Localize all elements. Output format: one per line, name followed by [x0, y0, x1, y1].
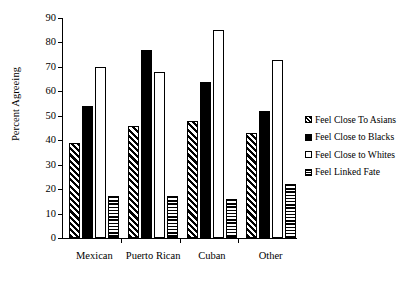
y-tick-mark	[58, 91, 62, 92]
y-tick-mark	[58, 189, 62, 190]
x-axis-group-separator	[238, 238, 239, 243]
bars	[246, 18, 296, 238]
chart-legend: Feel Close To AsiansFeel Close to Blacks…	[305, 112, 416, 182]
bar	[82, 106, 93, 238]
bar	[108, 196, 119, 238]
x-axis-category-label: Puerto Rican	[126, 250, 181, 261]
bar	[69, 143, 80, 238]
y-tick-mark	[58, 140, 62, 141]
y-tick-label: 60	[46, 86, 57, 97]
y-tick-label: 70	[46, 62, 57, 73]
bars	[187, 18, 237, 238]
bar	[200, 82, 211, 238]
legend-item: Feel Close To Asians	[305, 112, 416, 127]
bar	[259, 111, 270, 238]
y-axis-title: Percent Agreeing	[10, 54, 26, 154]
x-axis-category-label: Mexican	[76, 250, 113, 261]
bar	[213, 30, 224, 238]
legend-item: Feel Close to Whites	[305, 147, 416, 162]
legend-swatch-icon	[305, 116, 312, 123]
plot-area: 0102030405060708090 MexicanPuerto RicanC…	[62, 18, 297, 239]
y-tick-label: 90	[46, 13, 57, 24]
legend-label: Feel Close to Whites	[315, 150, 395, 160]
y-tick-label: 20	[46, 184, 57, 195]
legend-item: Feel Close to Blacks	[305, 130, 416, 145]
y-tick-label: 50	[46, 111, 57, 122]
bar	[154, 72, 165, 238]
bars	[128, 18, 178, 238]
y-tick-mark	[58, 238, 62, 239]
y-tick-mark	[58, 116, 62, 117]
x-axis-group-separator	[180, 238, 181, 243]
legend-swatch-icon	[305, 134, 312, 141]
y-tick-label: 30	[46, 159, 57, 170]
bars	[69, 18, 119, 238]
bar	[141, 50, 152, 238]
bar	[95, 67, 106, 238]
bar	[246, 133, 257, 238]
legend-item: Feel Linked Fate	[305, 165, 416, 180]
x-axis-category-label: Cuban	[198, 250, 225, 261]
y-axis-line	[62, 18, 63, 239]
y-tick-label: 0	[51, 233, 56, 244]
legend-label: Feel Close To Asians	[315, 115, 396, 125]
bar	[226, 199, 237, 238]
legend-label: Feel Close to Blacks	[315, 132, 394, 142]
bar	[128, 126, 139, 238]
bar	[167, 196, 178, 238]
legend-swatch-icon	[305, 169, 312, 176]
y-tick-mark	[58, 165, 62, 166]
y-tick-mark	[58, 18, 62, 19]
bar-chart: Percent Agreeing 0102030405060708090 Mex…	[0, 0, 416, 284]
legend-swatch-icon	[305, 151, 312, 158]
bar	[285, 184, 296, 238]
y-tick-label: 10	[46, 208, 57, 219]
x-axis-category-label: Other	[259, 250, 283, 261]
y-tick-mark	[58, 42, 62, 43]
bar	[187, 121, 198, 238]
legend-label: Feel Linked Fate	[315, 167, 380, 177]
bar	[272, 60, 283, 238]
y-tick-label: 80	[46, 37, 57, 48]
x-axis-group-separator	[121, 238, 122, 243]
y-tick-mark	[58, 67, 62, 68]
y-tick-label: 40	[46, 135, 57, 146]
y-tick-mark	[58, 214, 62, 215]
